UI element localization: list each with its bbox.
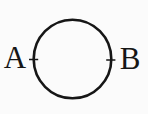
point-label-b: B [120,43,141,74]
circle-outline [34,20,112,99]
point-label-a: A [4,42,26,73]
point-b-plus-icon [106,55,115,64]
point-a-plus-icon [29,55,38,64]
figure-canvas: A B [0,0,148,114]
